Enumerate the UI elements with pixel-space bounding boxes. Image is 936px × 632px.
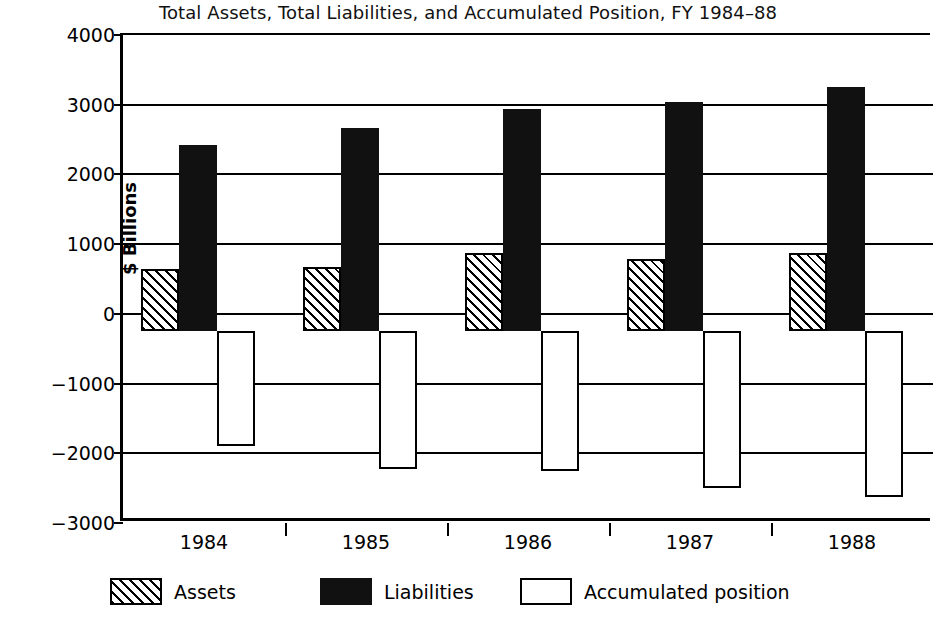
y-axis-tick <box>114 243 123 245</box>
y-axis-label: −1000 <box>19 375 115 394</box>
bar-liab-1987 <box>665 102 703 331</box>
y-axis-label: 2000 <box>19 165 115 184</box>
y-axis-tick <box>114 383 123 385</box>
y-axis-tick <box>114 173 123 175</box>
x-axis-label: 1985 <box>286 531 446 553</box>
legend-label: Assets <box>174 581 236 603</box>
legend-swatch-assets <box>110 578 162 605</box>
y-axis-tick <box>114 104 123 106</box>
legend-swatch-liab <box>320 578 372 605</box>
bar-liab-1986 <box>503 109 541 331</box>
legend-label: Liabilities <box>384 581 474 603</box>
y-axis-tick <box>114 313 123 315</box>
y-axis-label: 3000 <box>19 96 115 115</box>
chart-title: Total Assets, Total Liabilities, and Acc… <box>0 2 936 23</box>
y-axis-tick <box>114 522 123 524</box>
bar-accum-1985 <box>379 331 417 469</box>
bar-liab-1985 <box>341 128 379 332</box>
y-axis-label: 4000 <box>19 26 115 45</box>
bar-assets-1985 <box>303 267 341 331</box>
bar-liab-1984 <box>179 145 217 331</box>
y-axis-label: −2000 <box>19 444 115 463</box>
x-axis-label: 1986 <box>448 531 608 553</box>
chart-legend: AssetsLiabilitiesAccumulated position <box>0 578 936 622</box>
legend-label: Accumulated position <box>584 581 790 603</box>
bar-accum-1984 <box>217 331 255 446</box>
legend-item-accum: Accumulated position <box>520 578 790 605</box>
y-axis-label: 1000 <box>19 235 115 254</box>
y-axis-label: −3000 <box>19 514 115 533</box>
gridline <box>123 452 933 454</box>
bar-accum-1987 <box>703 331 741 488</box>
chart-figure: Total Assets, Total Liabilities, and Acc… <box>0 0 936 632</box>
plot-area: $ Billions 40003000200010000−1000−2000−3… <box>120 33 930 521</box>
gridline <box>123 104 933 106</box>
y-axis-tick <box>114 34 123 36</box>
x-axis-label: 1984 <box>124 531 284 553</box>
bar-accum-1986 <box>541 331 579 470</box>
bar-accum-1988 <box>865 331 903 497</box>
legend-item-assets: Assets <box>110 578 236 605</box>
x-axis-label: 1988 <box>772 531 932 553</box>
legend-item-liab: Liabilities <box>320 578 474 605</box>
y-axis-title: $ Billions <box>119 182 140 275</box>
legend-swatch-accum <box>520 578 572 605</box>
bar-assets-1987 <box>627 259 665 331</box>
bar-assets-1988 <box>789 253 827 331</box>
x-axis-label: 1987 <box>610 531 770 553</box>
bar-assets-1986 <box>465 253 503 331</box>
y-axis-label: 0 <box>19 305 115 324</box>
bar-assets-1984 <box>141 269 179 331</box>
bar-liab-1988 <box>827 87 865 331</box>
y-axis-tick <box>114 452 123 454</box>
